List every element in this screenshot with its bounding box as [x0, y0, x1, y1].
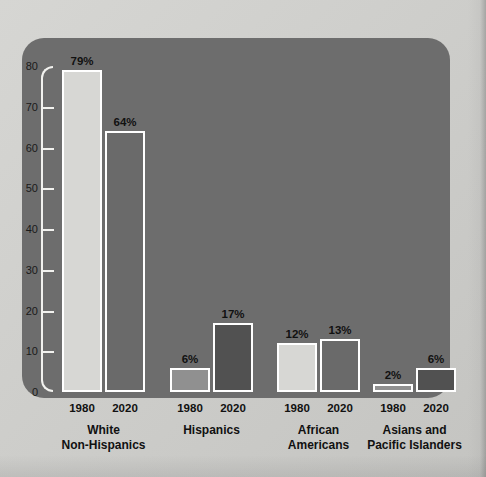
bar-white-non-hispanics-1980[interactable]	[62, 70, 102, 392]
y-axis-tick-40	[43, 229, 54, 231]
year-label-african-americans-2020: 2020	[318, 403, 362, 415]
bar-hispanics-2020[interactable]	[213, 323, 253, 392]
y-axis-label-30: 30	[14, 264, 38, 275]
group-label-line: Asians and	[344, 423, 485, 438]
year-label-white-non-hispanics-1980: 1980	[60, 403, 104, 415]
bar-value-white-non-hispanics-1980: 79%	[62, 56, 102, 68]
bar-white-non-hispanics-2020[interactable]	[105, 131, 145, 392]
y-axis-tick-50	[43, 188, 54, 190]
bar-value-asians-pacific-islanders-1980: 2%	[373, 370, 413, 382]
bar-african-americans-2020[interactable]	[320, 339, 360, 392]
bar-value-hispanics-2020: 17%	[213, 309, 253, 321]
bar-hispanics-1980[interactable]	[170, 368, 210, 392]
y-axis-label-40: 40	[14, 224, 38, 235]
year-label-asians-pacific-islanders-2020: 2020	[414, 403, 458, 415]
y-axis-label-20: 20	[14, 305, 38, 316]
y-axis-tick-10	[43, 351, 54, 353]
group-label-line: Pacific Islanders	[344, 438, 485, 453]
y-axis-tick-60	[43, 148, 54, 150]
year-label-hispanics-1980: 1980	[168, 403, 212, 415]
bar-value-african-americans-2020: 13%	[320, 325, 360, 337]
bar-asians-pacific-islanders-1980[interactable]	[373, 384, 413, 392]
y-axis-tick-20	[43, 311, 54, 313]
y-axis-label-80: 80	[14, 61, 38, 72]
year-label-hispanics-2020: 2020	[211, 403, 255, 415]
year-label-asians-pacific-islanders-1980: 1980	[371, 403, 415, 415]
bar-chart: 80 70 60 50 40 30 20 10 0 79% 64% 1980 2…	[0, 0, 486, 477]
bar-value-white-non-hispanics-2020: 64%	[105, 117, 145, 129]
y-axis-label-70: 70	[14, 101, 38, 112]
year-label-white-non-hispanics-2020: 2020	[103, 403, 147, 415]
bar-value-african-americans-1980: 12%	[277, 329, 317, 341]
bar-african-americans-1980[interactable]	[277, 343, 317, 392]
bar-value-asians-pacific-islanders-2020: 6%	[416, 354, 456, 366]
group-label-line: Non-Hispanics	[33, 438, 174, 453]
y-axis-tick-70	[43, 107, 54, 109]
bar-asians-pacific-islanders-2020[interactable]	[416, 368, 456, 392]
y-axis-tick-30	[43, 270, 54, 272]
y-axis-label-60: 60	[14, 142, 38, 153]
year-label-african-americans-1980: 1980	[275, 403, 319, 415]
bar-value-hispanics-1980: 6%	[170, 354, 210, 366]
y-axis-label-0: 0	[14, 387, 38, 398]
y-axis-label-50: 50	[14, 183, 38, 194]
group-label-asians-pacific-islanders: Asians and Pacific Islanders	[344, 423, 485, 454]
y-axis-label-10: 10	[14, 346, 38, 357]
